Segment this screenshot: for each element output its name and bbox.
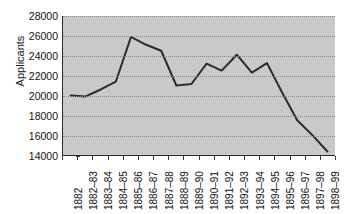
x-tick-label: 1888–89 xyxy=(180,171,190,210)
y-tick-label: 28000 xyxy=(29,11,58,22)
x-tick-label: 1897–98 xyxy=(316,171,326,210)
gridline xyxy=(63,116,335,117)
y-axis-tick-labels: 1400016000180002000022000240002600028000 xyxy=(18,16,58,156)
gridline xyxy=(63,56,335,57)
x-tick-label: 1895–96 xyxy=(286,171,296,210)
x-tick-label: 1896–97 xyxy=(301,171,311,210)
plot-area xyxy=(62,16,335,156)
x-tick-label: 1892–93 xyxy=(240,171,250,210)
line-chart: Applicants 14000160001800020000220002400… xyxy=(0,0,348,214)
gridline xyxy=(63,96,335,97)
x-tick-label: 1887–88 xyxy=(165,171,175,210)
y-tick-label: 22000 xyxy=(29,71,58,82)
x-tick-label: 1889–90 xyxy=(195,171,205,210)
gridline xyxy=(63,16,335,17)
data-line xyxy=(71,37,328,152)
x-tick-label: 1891–92 xyxy=(225,171,235,210)
x-tick-label: 1885–86 xyxy=(134,171,144,210)
y-tick-label: 24000 xyxy=(29,51,58,62)
y-tick-label: 16000 xyxy=(29,131,58,142)
x-tick-label: 1882 xyxy=(74,188,84,210)
x-tick-label: 1890–91 xyxy=(210,171,220,210)
y-tick-label: 18000 xyxy=(29,111,58,122)
gridline xyxy=(63,36,335,37)
x-tick-mark xyxy=(335,156,336,160)
y-tick-label: 26000 xyxy=(29,31,58,42)
x-tick-label: 1886–87 xyxy=(149,171,159,210)
y-tick-label: 20000 xyxy=(29,91,58,102)
x-tick-label: 1884–85 xyxy=(119,171,129,210)
y-tick-label: 14000 xyxy=(29,151,58,162)
x-tick-label: 1883–84 xyxy=(104,171,114,210)
x-tick-label: 1894–95 xyxy=(271,171,281,210)
x-tick-label: 1898–99 xyxy=(331,171,341,210)
x-axis-tick-labels: 18821882–831883–841884–851885–861886–871… xyxy=(62,160,335,214)
gridline xyxy=(63,76,335,77)
gridline xyxy=(63,136,335,137)
x-tick-label: 1882–83 xyxy=(89,171,99,210)
x-tick-label: 1893–94 xyxy=(256,171,266,210)
